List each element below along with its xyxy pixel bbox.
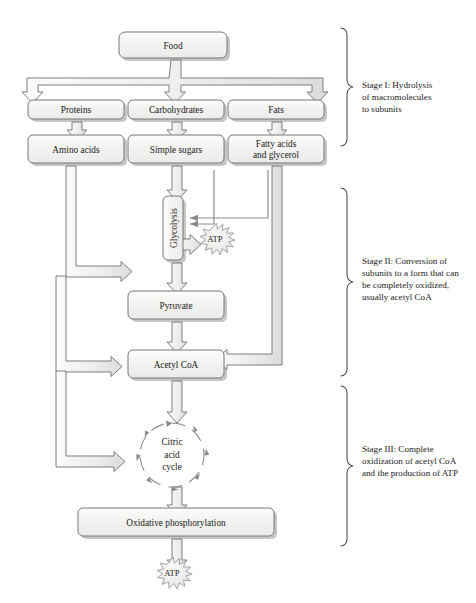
bracket-stage-1 [341, 28, 353, 146]
bracket-stage-2 [341, 188, 353, 376]
label-simple-sugars: Simple sugars [150, 145, 203, 155]
stage-brackets [341, 28, 353, 546]
label-cycle-line3: cycle [162, 462, 182, 472]
label-stage-3-line2: oxidization of acetyl CoA [362, 456, 457, 466]
label-oxidative-phosphorylation: Oxidative phosphorylation [126, 518, 226, 528]
label-acetyl-coa: Acetyl CoA [154, 360, 199, 370]
arrow-fattyacids-to-acetylcoa [216, 166, 282, 370]
label-stage-2-line4: usually acetyl CoA [362, 292, 432, 302]
label-stage-1-line1: Stage I: Hydrolysis [362, 80, 433, 90]
label-stage-3-line1: Stage III: Complete [362, 444, 434, 454]
label-fatty-acids-line2: and glycerol [253, 150, 300, 160]
label-atp-glycolysis: ATP [207, 234, 223, 244]
label-atp-oxphos: ATP [164, 568, 180, 578]
label-glycolysis: Glycolysis [169, 208, 179, 248]
label-stage-1-line3: to subunits [362, 104, 402, 114]
metabolism-diagram: Food Proteins Carbohydrates Fats Amino a… [0, 0, 476, 603]
label-food: Food [163, 41, 182, 51]
cycle-labels: Citric acid cycle [161, 437, 182, 472]
label-stage-3-line3: and the production of ATP [362, 468, 458, 478]
arrow-acetylcoa-to-cycle [167, 381, 187, 423]
bracket-stage-3 [341, 386, 353, 546]
label-stage-2-line1: Stage II: Conversion of [362, 256, 448, 266]
label-pyruvate: Pyruvate [159, 301, 192, 311]
label-carbohydrates: Carbohydrates [149, 105, 204, 115]
thin-feedback-lines [190, 170, 268, 224]
label-fats: Fats [268, 105, 284, 115]
arrow-aminoacids-to-cycle [56, 371, 125, 472]
label-stage-2-line2: subunits to a form that can [362, 268, 459, 278]
arrow-food-to-macromolecules [22, 60, 328, 103]
arrow-aminoacids-to-pyruvate [66, 166, 132, 282]
arrow-aminoacids-to-acetylcoa [56, 276, 122, 377]
stage-labels: Stage I: Hydrolysis of macromolecules to… [362, 80, 459, 478]
thin-feedback-arrowheads [190, 215, 198, 227]
diagram-canvas: Food Proteins Carbohydrates Fats Amino a… [0, 0, 476, 603]
label-fatty-acids: Fatty acids [256, 139, 297, 149]
label-stage-1-line2: of macromolecules [362, 92, 432, 102]
label-proteins: Proteins [61, 105, 92, 115]
label-amino-acids: Amino acids [52, 145, 100, 155]
arrow-pyruvate-to-acetylcoa [167, 322, 187, 353]
label-cycle-line1: Citric [161, 437, 182, 447]
label-stage-2-line3: be completely oxidized, [362, 280, 449, 290]
label-cycle-line2: acid [164, 450, 180, 460]
arrow-glycolysis-to-pyruvate [167, 263, 187, 294]
